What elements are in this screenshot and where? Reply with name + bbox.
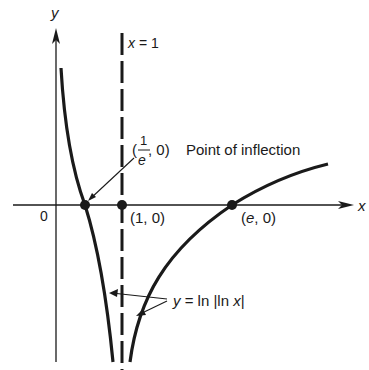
point-e-marker [227,200,237,210]
x-axis-label: x [357,197,366,214]
curve-label-pointer-left-arrow-icon [109,289,118,297]
svg-text:(: ( [132,141,137,158]
curve-label-pointer-left [112,293,167,299]
inflection-label: ( 1 e , 0) Point of inflection [132,133,300,168]
point-one-marker [117,200,127,210]
y-axis [52,28,60,362]
svg-text:, 0): , 0) [148,141,170,158]
origin-label: 0 [40,208,48,224]
right-branch-curve [130,164,328,362]
asymptote-label: x = 1 [127,35,159,51]
point-e-label: (e, 0) [241,209,276,226]
left-branch-curve [61,68,113,362]
svg-text:e: e [138,152,146,168]
curve-label: y = ln |ln x| [172,292,245,309]
x-axis [13,201,354,209]
inflection-pointer [90,158,134,199]
y-axis-label: y [50,4,60,21]
svg-text:Point of inflection: Point of inflection [186,141,300,158]
inflection-point-marker [80,200,90,210]
ln-ln-x-graph: y x 0 x = 1 ( 1 e , 0) Point of inflecti… [0,0,369,370]
point-one-label: (1, 0) [130,209,165,226]
svg-text:1: 1 [140,133,147,148]
